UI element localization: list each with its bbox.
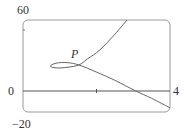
plot-frame [23, 20, 170, 112]
y-min-label: −20 [12, 118, 31, 130]
x-max-label: 4 [173, 85, 179, 97]
point-p-label: P [71, 48, 78, 60]
chart-plot [0, 0, 190, 135]
data-curve [50, 20, 170, 108]
y-max-label: 60 [17, 4, 29, 16]
x-min-label: 0 [8, 85, 14, 97]
